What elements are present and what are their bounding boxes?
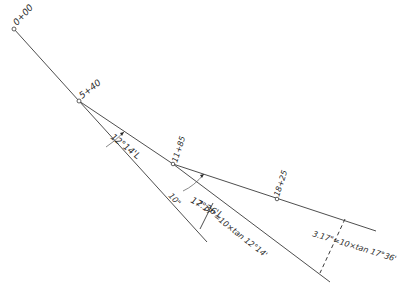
station-point-0 [12,27,16,31]
alignment-diagram: 0+00 5+40 11+85 18+25 12°14'L 17°36'L 10… [0,0,400,285]
back-tangent-extension-540 [79,101,207,242]
distance-label-10: 10" [167,191,183,207]
tangent-line-540-1185 [79,101,173,164]
station-label-1185: 11+85 [170,135,187,164]
angle-arc-17-36 [183,174,204,191]
station-label-540: 5+40 [77,77,103,100]
station-label-1825: 18+25 [272,169,289,198]
offset-label-1: 2.17"=10×tan 12°14' [195,198,269,259]
offset-label-2: 3.17"=10×tan 17°36' [311,229,397,263]
station-point-540 [77,99,81,103]
angle-label-12-14: 12°14'L [109,132,143,161]
tangent-line-1185-1825 [173,164,376,231]
station-label-0: 0+00 [11,2,35,27]
tangent-line-0-540 [14,29,79,101]
